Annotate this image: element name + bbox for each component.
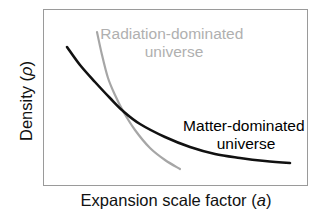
matter-label: Matter-dominated universe: [183, 117, 309, 152]
y-axis-label: Density (ρ): [17, 61, 35, 141]
radiation-label: Radiation-dominated universe: [100, 25, 247, 60]
chart: Radiation-dominated universe Matter-domi…: [0, 0, 323, 222]
x-axis-label: Expansion scale factor (a): [81, 191, 272, 209]
